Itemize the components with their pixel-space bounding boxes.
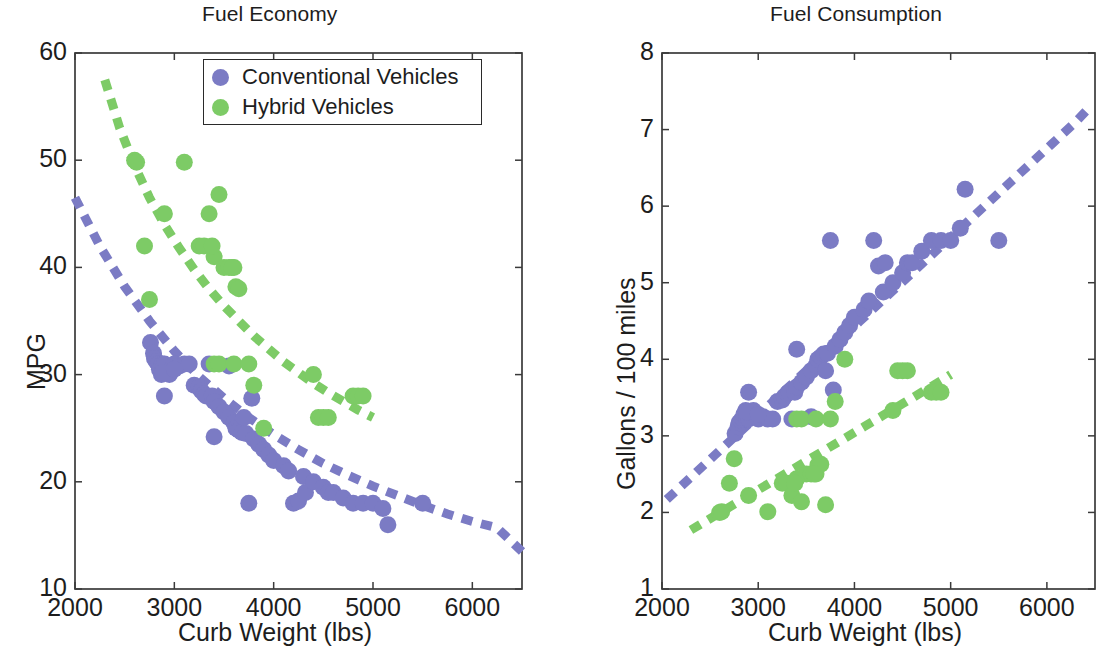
data-point	[750, 406, 767, 423]
data-point	[128, 154, 145, 171]
data-point	[990, 232, 1007, 249]
data-point	[176, 154, 193, 171]
data-point	[860, 293, 877, 310]
data-point	[141, 291, 158, 308]
data-point	[136, 238, 153, 255]
data-point	[822, 232, 839, 249]
data-point	[726, 450, 743, 467]
data-point	[793, 411, 810, 428]
data-point	[240, 355, 257, 372]
data-point	[156, 205, 173, 222]
data-point	[713, 503, 730, 520]
data-point	[721, 475, 738, 492]
data-point	[280, 463, 297, 480]
data-point	[899, 362, 916, 379]
legend-entry-hybrid: Hybrid Vehicles	[212, 92, 394, 122]
data-point	[952, 220, 969, 237]
plot-fuel-economy	[75, 53, 522, 589]
data-point	[877, 254, 894, 271]
plot-fuel-consumption	[662, 53, 1095, 589]
data-point	[235, 409, 252, 426]
data-point	[166, 361, 183, 378]
data-point	[933, 384, 950, 401]
data-point	[379, 516, 396, 533]
data-point	[225, 355, 242, 372]
data-point	[806, 466, 823, 483]
legend-entry-conventional: Conventional Vehicles	[212, 62, 458, 92]
data-point	[740, 384, 757, 401]
data-point	[764, 411, 781, 428]
data-point	[788, 341, 805, 358]
data-point	[320, 409, 337, 426]
figure-canvas: Fuel Economy Fuel Consumption MPG Curb W…	[0, 0, 1103, 659]
data-point	[865, 232, 882, 249]
data-point	[245, 377, 262, 394]
data-point	[817, 496, 834, 513]
data-point	[211, 355, 228, 372]
data-point	[884, 402, 901, 419]
data-point	[827, 393, 844, 410]
data-point	[230, 280, 247, 297]
legend-label-conventional: Conventional Vehicles	[242, 66, 458, 88]
data-point	[305, 366, 322, 383]
data-point	[255, 420, 272, 437]
data-point	[204, 238, 221, 255]
legend-label-hybrid: Hybrid Vehicles	[242, 96, 394, 118]
data-point	[759, 503, 776, 520]
data-point	[240, 495, 257, 512]
data-point	[793, 493, 810, 510]
data-point	[211, 186, 228, 203]
data-point	[414, 495, 431, 512]
data-point	[156, 388, 173, 405]
data-point	[786, 475, 803, 492]
data-point	[822, 411, 839, 428]
data-point	[355, 388, 372, 405]
data-point	[223, 259, 240, 276]
data-point	[206, 428, 223, 445]
data-point	[836, 351, 853, 368]
data-point	[374, 500, 391, 517]
data-point	[201, 205, 218, 222]
legend: Conventional Vehicles Hybrid Vehicles	[203, 59, 482, 125]
legend-marker-hybrid-icon	[212, 99, 229, 116]
data-point	[181, 355, 198, 372]
plot-drawing-surface	[0, 0, 1103, 659]
legend-marker-conventional-icon	[212, 69, 229, 86]
data-point	[817, 362, 834, 379]
data-point	[740, 487, 757, 504]
data-point	[957, 181, 974, 198]
